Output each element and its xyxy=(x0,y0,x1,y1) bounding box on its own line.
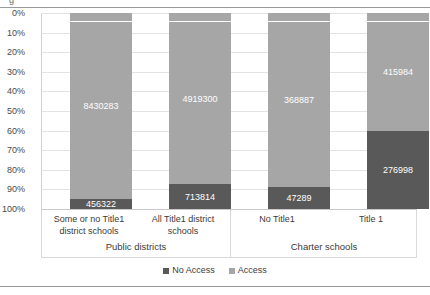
legend-item[interactable]: Access xyxy=(229,265,267,276)
data-label-access: 8430283 xyxy=(70,101,132,111)
legend-swatch-icon xyxy=(163,268,169,274)
stacked-bar-chart: g 0%10%20%30%40%50%60%70%80%90%100%84302… xyxy=(0,0,430,295)
data-label-access: 368887 xyxy=(268,95,330,105)
category-axis: Some or no Title1 district schoolsAll Ti… xyxy=(41,210,417,258)
data-label-no-access: 713814 xyxy=(169,192,231,202)
segment-highlight-line xyxy=(169,21,231,22)
legend-item[interactable]: No Access xyxy=(163,265,215,276)
segment-highlight-line xyxy=(70,21,132,22)
category-axis-label: All Title1 district schools xyxy=(136,214,230,237)
data-label-access: 415984 xyxy=(367,67,429,77)
segment-highlight-line xyxy=(367,21,429,22)
data-label-no-access: 47289 xyxy=(268,193,330,203)
category-group-label: Public districts xyxy=(42,241,230,252)
y-axis-tick-label: 0% xyxy=(0,9,25,18)
bar-stack[interactable]: 4919300713814 xyxy=(169,13,231,209)
y-axis-tick-label: 50% xyxy=(0,107,25,116)
y-axis-tick-label: 70% xyxy=(0,146,25,155)
category-group-label: Charter schools xyxy=(230,241,418,252)
y-axis-tick-label: 60% xyxy=(0,127,25,136)
y-axis-tick-label: 40% xyxy=(0,87,25,96)
data-label-access: 4919300 xyxy=(169,94,231,104)
legend-label: No Access xyxy=(172,265,215,275)
legend-swatch-icon xyxy=(229,268,235,274)
plot-area: 0%10%20%30%40%50%60%70%80%90%100%8430283… xyxy=(41,13,417,209)
bar-stack[interactable]: 8430283456322 xyxy=(70,13,132,209)
bar-stack[interactable]: 36888747289 xyxy=(268,13,330,209)
chart-legend: No AccessAccess xyxy=(0,265,430,276)
category-axis-label: No Title1 xyxy=(230,214,324,226)
bar-stack[interactable]: 415984276998 xyxy=(367,13,429,209)
data-label-no-access: 456322 xyxy=(70,199,132,209)
y-axis-tick-label: 10% xyxy=(0,29,25,38)
top-divider-rule xyxy=(0,7,430,8)
y-axis-tick-label: 90% xyxy=(0,185,25,194)
y-axis-tick-label: 80% xyxy=(0,166,25,175)
cropped-title-text: g xyxy=(9,0,14,5)
category-axis-label: Title 1 xyxy=(324,214,418,226)
data-label-no-access: 276998 xyxy=(367,165,429,175)
cropped-chart-title: g xyxy=(0,0,430,7)
y-axis-tick-label: 20% xyxy=(0,48,25,57)
bottom-divider-rule xyxy=(0,286,430,287)
legend-label: Access xyxy=(238,265,267,275)
y-axis-tick-label: 30% xyxy=(0,68,25,77)
category-axis-label: Some or no Title1 district schools xyxy=(42,214,136,237)
y-axis-tick-label: 100% xyxy=(0,205,25,214)
segment-highlight-line xyxy=(268,21,330,22)
